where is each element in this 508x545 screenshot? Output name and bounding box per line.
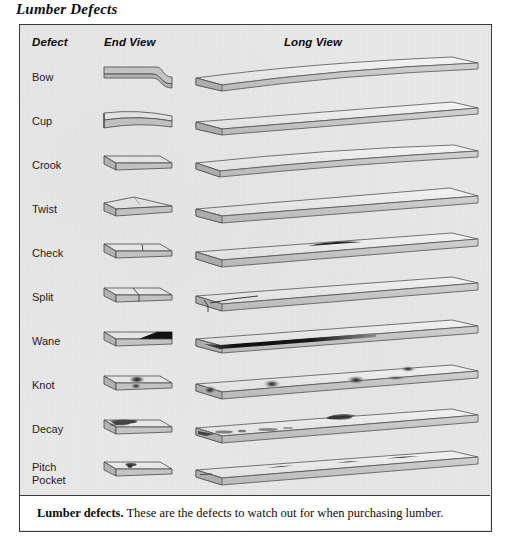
page-title: Lumber Defects [16, 1, 118, 18]
table-row: Knot [20, 363, 490, 408]
caption-body: These are the defects to watch out for w… [124, 506, 444, 520]
lumber-defects-panel: Defect End View Long View Bow [19, 24, 492, 532]
long-view-wane [190, 319, 490, 364]
end-view-pitch-pocket [100, 449, 192, 494]
table-row: Pitch Pocket [20, 449, 490, 494]
column-header-long-view: Long View [284, 36, 342, 48]
end-view-split [100, 275, 192, 320]
end-view-wane [100, 319, 192, 364]
row-label-twist: Twist [32, 203, 98, 216]
row-label-split: Split [32, 291, 98, 304]
long-view-split [190, 275, 490, 320]
table-row: Twist [20, 187, 490, 232]
caption-text: Lumber defects. These are the defects to… [20, 506, 453, 521]
row-label-crook: Crook [32, 159, 98, 172]
table-row: Split [20, 275, 490, 320]
table-row: Decay [20, 407, 490, 452]
end-view-crook [100, 143, 192, 188]
long-view-decay [190, 407, 490, 452]
end-view-twist [100, 187, 192, 232]
row-label-cup: Cup [32, 115, 98, 128]
end-view-knot [100, 363, 192, 408]
long-view-check [190, 231, 490, 276]
end-view-bow [100, 55, 192, 100]
column-header-defect: Defect [32, 36, 68, 48]
long-view-twist [190, 187, 490, 232]
row-label-check: Check [32, 247, 98, 260]
table-row: Cup [20, 99, 490, 144]
long-view-bow [190, 55, 490, 100]
column-header-end-view: End View [104, 36, 156, 48]
long-view-crook [190, 143, 490, 188]
long-view-cup [190, 99, 490, 144]
caption-lead: Lumber defects. [37, 506, 124, 520]
defects-table: Defect End View Long View Bow [20, 25, 490, 495]
long-view-pitch-pocket [190, 449, 490, 494]
row-label-wane: Wane [32, 335, 98, 348]
row-label-knot: Knot [32, 379, 98, 392]
figure-page: Lumber Defects Defect End View Long View… [0, 0, 508, 545]
table-row: Check [20, 231, 490, 276]
end-view-decay [100, 407, 192, 452]
table-row: Wane [20, 319, 490, 364]
table-row: Crook [20, 143, 490, 188]
table-row: Bow [20, 55, 490, 100]
row-label-pitch-pocket: Pitch Pocket [32, 461, 98, 486]
row-label-decay: Decay [32, 423, 98, 436]
figure-caption: Lumber defects. These are the defects to… [20, 495, 490, 530]
end-view-check [100, 231, 192, 276]
row-label-bow: Bow [32, 71, 98, 84]
long-view-knot [190, 363, 490, 408]
end-view-cup [100, 99, 192, 144]
